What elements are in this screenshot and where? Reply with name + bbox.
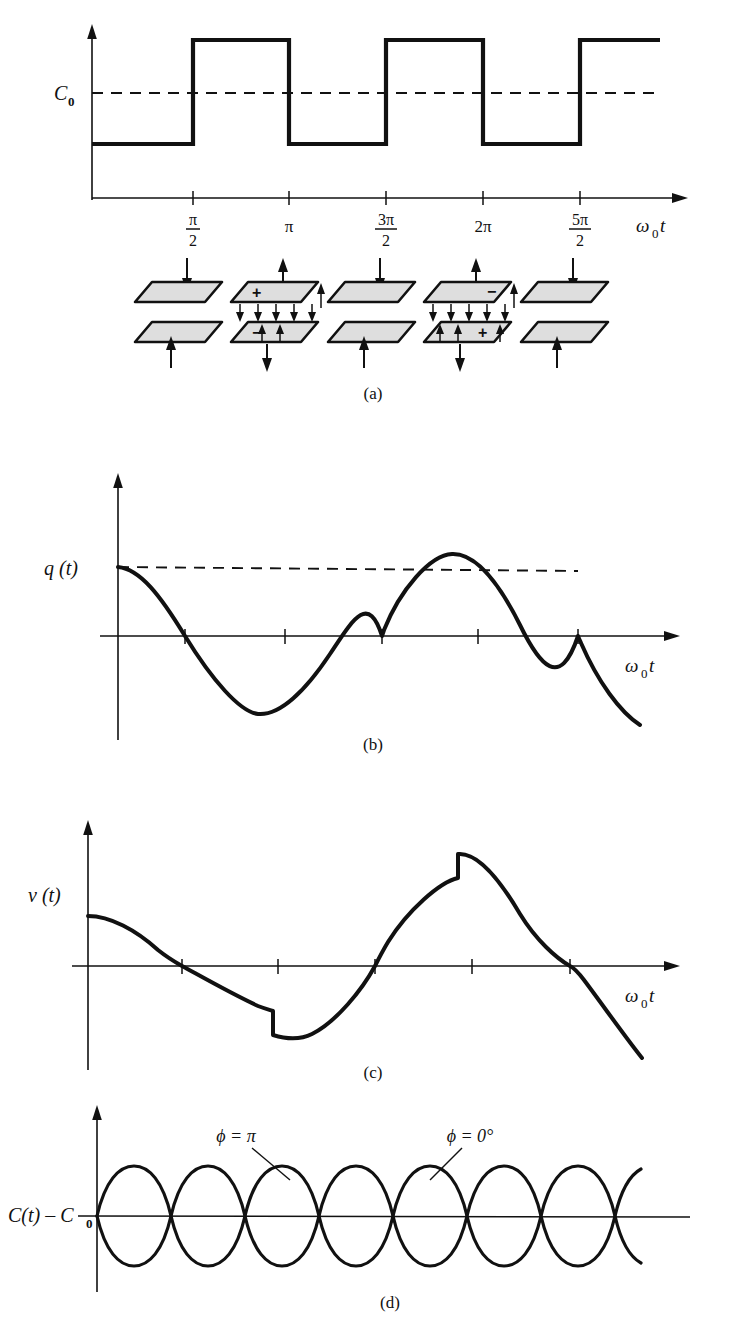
panel-a-y-axis-label: C 0 [54, 82, 75, 109]
capacitor-group-2-charged-positive-top: + − [231, 258, 325, 372]
annotation-phase-pi-text: ϕ = π [216, 1126, 256, 1146]
omega-symbol-b: ω [625, 655, 638, 676]
tick-label-pi-num: π [285, 217, 294, 236]
omega-subscript-a: 0 [652, 226, 659, 241]
plate-top-5 [521, 282, 608, 302]
charge-curve-q [118, 554, 640, 725]
plate-top-4 [424, 282, 511, 302]
force-arrow-bottom-outward-4 [455, 344, 465, 372]
ct-minus-c0-subscript: 0 [86, 1216, 93, 1231]
plate-top-1 [135, 282, 222, 302]
caption-b: (b) [363, 735, 383, 754]
tick-label-5pi-over-2: 5π 2 [569, 211, 591, 249]
charge-sign-top-4: − [487, 283, 496, 300]
capacitor-group-1-uncharged [135, 258, 222, 368]
tick-label-3pi-over-2-num: 3π [378, 211, 394, 228]
tick-label-2pi: 2π [474, 217, 492, 236]
capacitor-group-4-charged-negative-top: − + [424, 258, 518, 372]
panel-a-y-axis [87, 24, 97, 200]
omega-symbol-c: ω [625, 985, 638, 1006]
panel-c-voltage-waveform: v (t) ω 0 t (c) [0, 790, 746, 1090]
q-reference-dashed-line [118, 567, 578, 571]
caption-d: (d) [380, 1293, 400, 1312]
c0-label-main: C [54, 82, 68, 104]
plate-bottom-3 [328, 322, 415, 342]
x-axis-arrowhead-b [664, 631, 680, 641]
panel-c-y-axis-label: v (t) [28, 884, 61, 907]
field-arrows-2 [236, 304, 316, 322]
tick-label-5pi-over-2-den: 2 [576, 232, 584, 249]
c0-label-subscript: 0 [68, 94, 75, 109]
tick-label-pi-over-2-num: π [189, 211, 197, 228]
charge-sign-top-2: + [252, 284, 261, 301]
panel-b-y-axis [113, 473, 123, 740]
plate-bottom-1 [135, 322, 222, 342]
y-axis-arrowhead [87, 24, 97, 39]
field-arrows-4 [429, 304, 509, 322]
panel-c-x-axis-label: ω 0 t [625, 985, 655, 1011]
y-axis-arrowhead-b [113, 473, 123, 488]
omega-symbol-a: ω [636, 215, 649, 236]
plate-bottom-5 [521, 322, 608, 342]
tick-label-pi-over-2-den: 2 [189, 232, 197, 249]
caption-a: (a) [364, 384, 383, 403]
tick-label-5pi-over-2-num: 5π [572, 211, 588, 228]
panel-b-charge-waveform: q (t) ω 0 t (b) [0, 440, 746, 770]
annotation-phase-zero-text: ϕ = 0° [447, 1126, 494, 1146]
x-axis-arrowhead-c [664, 961, 680, 971]
x-axis-arrowhead [672, 193, 688, 203]
y-axis-arrowhead-c [83, 820, 93, 835]
t-symbol-a: t [660, 215, 666, 236]
tick-label-pi-over-2: π 2 [186, 211, 200, 249]
side-arrow-right-top-2 [317, 283, 325, 308]
figure-root: C 0 π 2 π 3π 2 2π 5π 2 ω 0 [0, 0, 746, 1319]
square-wave-capacitance [92, 40, 660, 144]
t-symbol-b: t [649, 655, 655, 676]
plate-top-2 [231, 282, 318, 302]
annotation-phase-pi: ϕ = π [216, 1126, 290, 1180]
tick-label-pi: π [285, 217, 294, 236]
panel-b-y-axis-label: q (t) [44, 557, 78, 580]
ct-minus-c0-main: C(t) – C [8, 1204, 74, 1227]
plate-top-3 [328, 282, 415, 302]
side-arrow-right-top-4 [510, 283, 518, 308]
panel-d-pump-phase-waveforms: C(t) – C 0 ϕ = π ϕ = 0° (d) [0, 1080, 746, 1319]
omega-subscript-b: 0 [641, 666, 648, 681]
annotation-phase-zero: ϕ = 0° [430, 1126, 493, 1180]
plate-bottom-2 [231, 322, 318, 342]
tick-label-3pi-over-2-den: 2 [382, 232, 390, 249]
panel-a-x-axis [92, 193, 688, 203]
panel-d-y-axis-label: C(t) – C 0 [8, 1204, 93, 1231]
tick-label-2pi-num: 2π [474, 217, 492, 236]
omega-subscript-c: 0 [641, 996, 648, 1011]
panel-a-x-axis-label: ω 0 t [636, 215, 666, 241]
force-arrow-bottom-outward-2 [262, 344, 272, 372]
t-symbol-c: t [649, 985, 655, 1006]
y-axis-arrowhead-d [92, 1105, 102, 1120]
panel-b-x-axis-label: ω 0 t [625, 655, 655, 681]
tick-label-3pi-over-2: 3π 2 [375, 211, 397, 249]
charge-sign-bottom-4: + [478, 324, 487, 341]
panel-c-y-axis [83, 820, 93, 1070]
capacitor-group-5-uncharged [521, 258, 608, 368]
panel-a-capacitance-waveform: C 0 π 2 π 3π 2 2π 5π 2 ω 0 [0, 0, 746, 430]
capacitor-group-3-uncharged [328, 258, 415, 368]
voltage-curve-v [88, 854, 642, 1058]
